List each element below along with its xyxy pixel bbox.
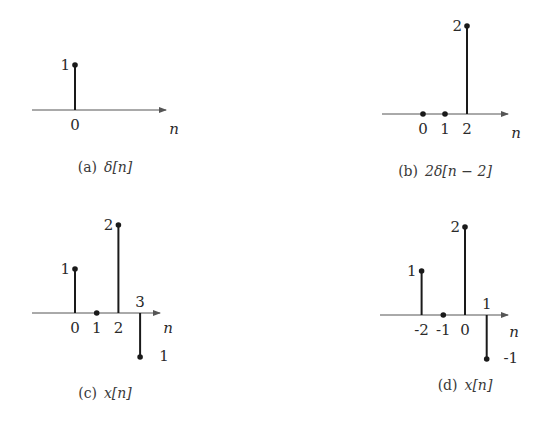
- stem-marker: [484, 356, 490, 362]
- value-label: 1: [159, 347, 169, 365]
- n-tick-label: 1: [482, 295, 492, 313]
- axis-label-n: n: [511, 124, 521, 142]
- caption-expression: δ[n]: [104, 159, 133, 175]
- n-tick-label: 0: [70, 319, 80, 337]
- value-label: 2: [104, 216, 114, 234]
- stem-plot-d: n1-220-11-1(d) x[n]: [380, 218, 519, 393]
- stem-marker: [72, 62, 78, 68]
- stem-marker: [464, 23, 470, 29]
- stem-marker: [116, 222, 122, 228]
- panel-caption: (a) δ[n]: [78, 159, 133, 175]
- zero-sample-marker: [420, 111, 426, 117]
- stem-marker: [72, 266, 78, 272]
- value-label: 1: [407, 262, 417, 280]
- stem-marker: [462, 224, 468, 230]
- stem: 10: [60, 56, 79, 134]
- n-tick-label: 3: [135, 293, 145, 311]
- stem: 22: [104, 216, 123, 337]
- caption-tag: (b): [398, 163, 425, 179]
- axis-label-n: n: [169, 120, 179, 138]
- stem-marker: [419, 268, 425, 274]
- n-tick-label: 1: [92, 319, 102, 337]
- panel-caption: (d) x[n]: [438, 377, 493, 393]
- zero-sample-marker: [442, 111, 448, 117]
- signal-figure: n10(a) δ[n]n2201(b) 2δ[n − 2]n1022131(c)…: [0, 0, 557, 423]
- stem-plot-c: n1022131(c) x[n]: [32, 216, 173, 401]
- n-tick-label: 0: [460, 321, 470, 339]
- n-tick-label: 0: [418, 120, 428, 138]
- panel-caption: (b) 2δ[n − 2]: [398, 163, 492, 179]
- value-label: 1: [60, 260, 70, 278]
- caption-expression: x[n]: [104, 385, 132, 401]
- panel-caption: (c) x[n]: [78, 385, 132, 401]
- caption-tag: (d): [438, 377, 465, 393]
- stem: 22: [452, 17, 471, 138]
- caption-tag: (a): [78, 159, 104, 175]
- stem: 10: [60, 260, 79, 337]
- caption-expression: x[n]: [465, 377, 493, 393]
- n-tick-label: -2: [414, 321, 429, 339]
- stem-plot-b: n2201(b) 2δ[n − 2]: [382, 17, 521, 179]
- n-tick-label: 2: [462, 120, 472, 138]
- axis-label-n: n: [163, 319, 173, 337]
- stem: 1-2: [407, 262, 429, 339]
- n-tick-label: 2: [114, 319, 124, 337]
- n-tick-label: 1: [440, 120, 450, 138]
- stem: 20: [450, 218, 469, 339]
- n-tick-label: -1: [436, 321, 451, 339]
- n-tick-label: 0: [70, 116, 80, 134]
- axis-label-n: n: [509, 323, 519, 341]
- value-label: -1: [503, 349, 518, 367]
- value-label: 2: [450, 218, 460, 236]
- stem-plot-a: n10(a) δ[n]: [32, 56, 179, 175]
- zero-sample-marker: [94, 310, 100, 316]
- caption-expression: 2δ[n − 2]: [424, 163, 492, 179]
- stem-marker: [137, 354, 143, 360]
- zero-sample-marker: [441, 312, 447, 318]
- value-label: 2: [452, 17, 462, 35]
- value-label: 1: [60, 56, 70, 74]
- caption-tag: (c): [78, 385, 104, 401]
